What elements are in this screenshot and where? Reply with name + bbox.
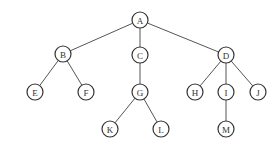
edge-A-D (147, 23, 218, 52)
nodes: ABCDEFGHIJKLM (27, 12, 266, 137)
edge-B-F (67, 61, 82, 85)
node-label: K (107, 125, 114, 135)
node-label: F (83, 88, 88, 98)
edge-G-K (115, 98, 135, 123)
node-label: L (158, 125, 164, 135)
node-label: C (137, 51, 143, 61)
node-label: G (137, 88, 144, 98)
edge-G-L (144, 99, 157, 122)
node-D: D (218, 47, 234, 63)
node-label: E (32, 88, 38, 98)
edge-D-J (231, 61, 253, 86)
node-label: A (137, 16, 144, 26)
node-M: M (218, 121, 234, 137)
node-label: B (60, 50, 66, 60)
edge-B-E (40, 60, 59, 85)
edge-A-B (70, 23, 132, 51)
node-I: I (218, 84, 234, 100)
node-B: B (55, 46, 71, 62)
edges (40, 23, 253, 123)
edge-D-H (200, 61, 221, 86)
node-label: D (223, 51, 230, 61)
node-label: I (225, 88, 228, 98)
node-label: M (222, 125, 230, 135)
node-J: J (250, 84, 266, 100)
node-F: F (78, 84, 94, 100)
node-label: J (256, 88, 260, 98)
node-label: H (192, 88, 199, 98)
node-L: L (153, 121, 169, 137)
node-A: A (132, 12, 148, 28)
tree-diagram: ABCDEFGHIJKLM (0, 0, 273, 151)
node-E: E (27, 84, 43, 100)
node-K: K (102, 121, 118, 137)
node-H: H (187, 84, 203, 100)
node-G: G (132, 84, 148, 100)
node-C: C (132, 47, 148, 63)
